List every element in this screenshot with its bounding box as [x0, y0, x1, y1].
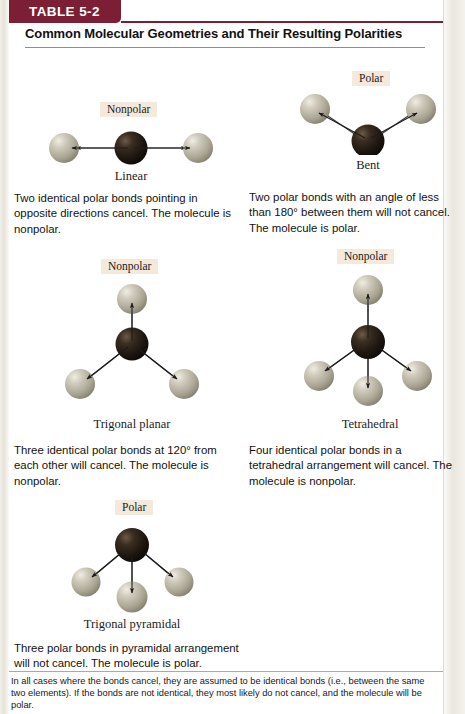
- caption-trigonal-planar: Three identical polar bonds at 120° from…: [14, 443, 240, 489]
- table-number-label: TABLE 5-2: [9, 4, 100, 19]
- caption-bent: Two polar bonds with an angle of less th…: [249, 190, 454, 236]
- bond-dipole-arrow: [144, 553, 173, 577]
- table-footnote: In all cases where the bonds cancel, the…: [11, 676, 435, 711]
- polarity-badge-trigonal-pyramidal: Polar: [115, 500, 153, 515]
- central-atom: [352, 125, 385, 156]
- page-title: Common Molecular Geometries and Their Re…: [25, 26, 402, 41]
- molecule-diagram-tetrahedral: [295, 272, 445, 408]
- molecule-diagram-trigonal-pyramidal: [66, 523, 196, 615]
- outer-atom: [406, 94, 436, 124]
- bond-dipole-arrow: [136, 347, 177, 379]
- title-divider: [25, 47, 425, 48]
- geometry-label-trigonal-pyramidal: Trigonal pyramidal: [56, 617, 208, 632]
- polarity-badge-linear: Nonpolar: [100, 102, 157, 117]
- bond-dipole-arrow: [87, 347, 128, 379]
- polarity-badge-trigonal-planar: Nonpolar: [101, 259, 158, 274]
- molecule-diagram-linear: [46, 124, 216, 172]
- caption-tetrahedral: Four identical polar bonds in a tetrahed…: [249, 443, 454, 489]
- outer-atom: [65, 369, 95, 399]
- tab-underline-rule: [121, 21, 443, 23]
- geometry-label-bent: Bent: [295, 158, 441, 173]
- bond-dipole-arrow: [379, 348, 411, 371]
- outer-atom: [402, 361, 432, 391]
- geometry-label-tetrahedral: Tetrahedral: [295, 417, 445, 432]
- outer-atom: [300, 94, 330, 124]
- table-number-tab: TABLE 5-2: [9, 0, 121, 23]
- bond-dipole-arrow: [325, 348, 357, 371]
- caption-linear: Two identical polar bonds pointing in op…: [14, 191, 240, 237]
- polarity-badge-tetrahedral: Nonpolar: [337, 249, 394, 264]
- polarity-badge-bent: Polar: [352, 71, 390, 86]
- molecule-diagram-trigonal-planar: [56, 283, 208, 408]
- outer-atom: [169, 369, 199, 399]
- bond-dipole-arrow: [92, 553, 121, 577]
- bond-dipole-arrow: [371, 113, 417, 138]
- geometry-label-trigonal-planar: Trigonal planar: [56, 417, 208, 432]
- geometry-label-linear: Linear: [46, 169, 216, 184]
- outer-atom: [304, 361, 334, 391]
- page-right-gutter: [443, 0, 465, 714]
- molecule-diagram-bent: [295, 93, 441, 155]
- footnote-divider: [9, 671, 443, 672]
- bond-dipole-arrow: [319, 113, 365, 138]
- page-left-gutter: [0, 0, 9, 714]
- caption-trigonal-pyramidal: Three polar bonds in pyramidal arrangeme…: [14, 641, 240, 672]
- central-atom: [115, 528, 149, 562]
- outer-atom: [165, 568, 194, 597]
- outer-atom: [72, 568, 101, 597]
